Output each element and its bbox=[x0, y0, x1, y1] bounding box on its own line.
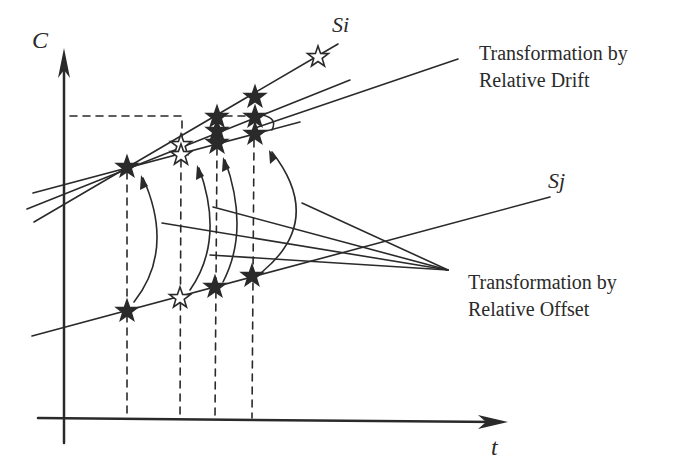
si-clock-lines bbox=[27, 44, 458, 222]
star-filled-icon bbox=[205, 276, 226, 296]
drift-pointer-line bbox=[255, 59, 458, 128]
offset-annotation-line2: Relative Offset bbox=[468, 296, 617, 323]
si-line bbox=[34, 44, 338, 222]
star-filled-icon bbox=[242, 265, 263, 285]
sj-label: Sj bbox=[548, 168, 565, 194]
x-axis-label: t bbox=[491, 434, 498, 461]
drift-annotation: Transformation by Relative Drift bbox=[479, 40, 628, 94]
sj-markers bbox=[117, 265, 263, 320]
drift-annotation-line1: Transformation by bbox=[479, 40, 628, 67]
offset-annotation: Transformation by Relative Offset bbox=[468, 269, 617, 323]
drift-annotation-line2: Relative Drift bbox=[479, 67, 628, 94]
y-axis-label: C bbox=[32, 27, 48, 54]
star-hollow-icon bbox=[308, 46, 329, 66]
offset-annotation-line1: Transformation by bbox=[468, 269, 617, 296]
x-axis bbox=[38, 418, 498, 422]
si-label: Si bbox=[332, 12, 349, 38]
dashed-projections bbox=[70, 116, 254, 418]
